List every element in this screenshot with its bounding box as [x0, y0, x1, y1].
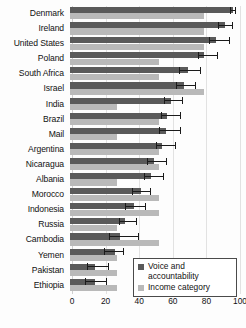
category-label-india: India	[0, 97, 68, 112]
bar-voice-accountability	[70, 7, 233, 13]
error-cap-low	[176, 82, 177, 89]
chart-row: Morocco	[0, 187, 246, 202]
error-cap-high	[175, 142, 176, 149]
error-cap-high	[180, 112, 181, 119]
error-cap-high	[106, 278, 107, 285]
chart-row: Israel	[0, 81, 246, 96]
x-tick-label-60: 60	[168, 296, 177, 306]
error-cap-low	[119, 218, 120, 225]
error-bar	[85, 281, 107, 282]
bar-voice-accountability	[70, 22, 225, 28]
error-cap-low	[179, 67, 180, 74]
error-cap-low	[218, 22, 219, 29]
chart-row: Denmark	[0, 6, 246, 21]
error-bar	[119, 221, 137, 222]
bar-voice-accountability	[70, 188, 141, 194]
bar-group	[68, 112, 238, 127]
bar-income-category	[70, 59, 159, 65]
bar-group	[68, 232, 238, 247]
legend-label-voice: Voice and accountability	[148, 262, 232, 281]
error-cap-high	[182, 97, 183, 104]
legend-label-income: Income category	[148, 283, 210, 293]
category-label-pakistan: Pakistan	[0, 263, 68, 278]
error-cap-high	[136, 218, 137, 225]
x-tick-label-100: 100	[233, 296, 246, 306]
chart-row: Indonesia	[0, 202, 246, 217]
bar-income-category	[70, 164, 159, 170]
chart-row: Albania	[0, 172, 246, 187]
error-bar	[147, 161, 167, 162]
x-axis: 020406080100	[70, 296, 240, 310]
bar-voice-accountability	[70, 67, 188, 73]
bar-voice-accountability	[70, 158, 154, 164]
bar-voice-accountability	[70, 113, 167, 119]
bar-income-category	[70, 134, 117, 140]
chart-row: Mail	[0, 127, 246, 142]
error-cap-low	[156, 142, 157, 149]
error-cap-high	[180, 127, 181, 134]
x-tick-label-20: 20	[101, 296, 110, 306]
bar-group	[68, 127, 238, 142]
error-cap-low	[109, 233, 110, 240]
chart-row: India	[0, 97, 246, 112]
category-label-yemen: Yemen	[0, 248, 68, 263]
error-cap-high	[232, 22, 233, 29]
bar-income-category	[70, 240, 159, 246]
bar-group	[68, 66, 238, 81]
bar-voice-accountability	[70, 143, 162, 149]
error-bar	[87, 266, 109, 267]
bar-income-category	[70, 149, 159, 155]
category-label-mail: Mail	[0, 127, 68, 142]
bar-group	[68, 202, 238, 217]
bar-income-category	[70, 89, 204, 95]
error-cap-low	[209, 37, 210, 44]
category-label-ireland: Ireland	[0, 21, 68, 36]
chart-row: Brazil	[0, 112, 246, 127]
bar-income-category	[70, 74, 159, 80]
bar-income-category	[70, 44, 204, 50]
error-cap-high	[138, 233, 139, 240]
error-bar	[209, 40, 229, 41]
category-label-denmark: Denmark	[0, 6, 68, 21]
bar-income-category	[70, 285, 117, 291]
bar-income-category	[70, 179, 117, 185]
bar-income-category	[70, 195, 159, 201]
category-label-argentina: Argentina	[0, 142, 68, 157]
bar-voice-accountability	[70, 37, 216, 43]
bar-income-category	[70, 119, 159, 125]
horizontal-bar-chart: DenmarkIrelandUnited StatesPolandSouth A…	[0, 0, 246, 328]
bar-income-category	[70, 28, 204, 34]
error-bar	[161, 115, 181, 116]
error-cap-low	[132, 188, 133, 195]
category-label-poland: Poland	[0, 51, 68, 66]
error-cap-high	[123, 248, 124, 255]
bar-income-category	[70, 210, 159, 216]
error-cap-high	[195, 82, 196, 89]
x-tick-label-0: 0	[70, 296, 75, 306]
legend-swatch-income	[138, 285, 144, 291]
error-cap-low	[198, 52, 199, 59]
category-label-ethiopia: Ethiopia	[0, 278, 68, 293]
bar-group	[68, 187, 238, 202]
error-bar	[218, 25, 233, 26]
error-cap-low	[230, 7, 231, 14]
error-bar	[156, 145, 176, 146]
chart-row: Russia	[0, 217, 246, 232]
category-label-brazil: Brazil	[0, 112, 68, 127]
error-bar	[159, 130, 181, 131]
bar-group	[68, 142, 238, 157]
error-bar	[230, 10, 237, 11]
bar-income-category	[70, 255, 117, 261]
bar-group	[68, 21, 238, 36]
error-cap-low	[147, 158, 148, 165]
bar-group	[68, 97, 238, 112]
error-cap-high	[108, 263, 109, 270]
category-label-nicaragua: Nicaragua	[0, 157, 68, 172]
chart-row: Argentina	[0, 142, 246, 157]
error-cap-high	[229, 37, 230, 44]
error-bar	[198, 55, 218, 56]
chart-row: South Africa	[0, 66, 246, 81]
error-cap-low	[144, 173, 145, 180]
category-label-indonesia: Indonesia	[0, 202, 68, 217]
category-label-south-africa: South Africa	[0, 66, 68, 81]
